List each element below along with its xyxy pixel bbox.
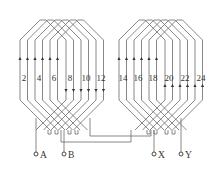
left-coil-group bbox=[18, 20, 105, 130]
slot-label: 20 bbox=[165, 73, 175, 83]
slot-label: 14 bbox=[119, 73, 129, 83]
terminal-label: X bbox=[158, 150, 165, 160]
slot-labels-right: 14 16 18 20 22 24 bbox=[119, 73, 207, 83]
terminal-circle-icon bbox=[62, 152, 66, 156]
slot-label: 8 bbox=[68, 73, 73, 83]
right-coil-group bbox=[117, 20, 204, 130]
terminal-label: A bbox=[40, 150, 47, 160]
slot-label: 10 bbox=[82, 73, 92, 83]
winding-diagram: 2 4 6 8 10 12 14 16 18 20 22 24 A B X Y bbox=[0, 0, 222, 171]
terminal-label: B bbox=[68, 150, 74, 160]
terminal-circle-icon bbox=[34, 152, 38, 156]
slot-label: 6 bbox=[52, 73, 57, 83]
terminal-circle-icon bbox=[179, 152, 183, 156]
terminal-label: Y bbox=[185, 150, 192, 160]
slot-label: 18 bbox=[149, 73, 159, 83]
slot-label: 24 bbox=[197, 73, 207, 83]
slot-labels-left: 2 4 6 8 10 12 bbox=[22, 73, 106, 83]
slot-label: 16 bbox=[134, 73, 144, 83]
slot-label: 22 bbox=[181, 73, 190, 83]
slot-label: 2 bbox=[22, 73, 27, 83]
slot-label: 12 bbox=[97, 73, 106, 83]
terminal-circle-icon bbox=[152, 152, 156, 156]
slot-label: 4 bbox=[37, 73, 42, 83]
